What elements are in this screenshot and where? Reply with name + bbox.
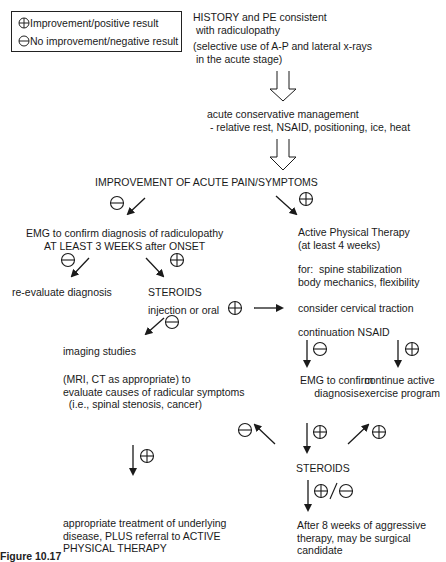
circle-plus-icon — [315, 485, 328, 498]
hollow-arrow-1 — [270, 71, 296, 101]
circle-minus-icon — [18, 35, 30, 47]
xrays-line-1: (selective use of A-P and lateral x-rays — [193, 40, 372, 53]
node-traction: consider cervical traction — [298, 302, 414, 315]
node-treatment: appropriate treatment of underlying dise… — [63, 517, 226, 555]
exercise-line-2: exercise program — [359, 387, 440, 400]
node-imaging-detail: (MRI, CT as appropriate) to evaluate cau… — [63, 373, 245, 411]
node-acute-management: acute conservative management - relative… — [207, 108, 410, 133]
circle-plus-icon — [314, 426, 327, 439]
legend-negative: No improvement/negative result — [18, 35, 178, 47]
history-line-1: HISTORY and PE consistent — [193, 11, 327, 24]
circle-plus-icon — [18, 17, 30, 29]
circle-minus-icon — [111, 197, 124, 210]
hollow-arrow-2 — [270, 139, 296, 170]
surgical-line-2: therapy, may be surgical — [297, 532, 426, 545]
imaging-line-1: (MRI, CT as appropriate) to — [63, 373, 245, 386]
for-items-line-1: for: spine stabilization — [298, 263, 419, 276]
node-history: HISTORY and PE consistent with radiculop… — [193, 11, 327, 36]
circle-plus-icon — [171, 254, 184, 267]
circle-plus-icon — [229, 302, 242, 315]
circle-plus-icon — [406, 343, 419, 356]
active-pt-line-2: (at least 4 weeks) — [298, 239, 410, 252]
exercise-line-1: continue active — [359, 374, 440, 387]
legend-positive-label: Improvement/positive result — [30, 17, 158, 29]
acute-mgmt-line-1: acute conservative management — [207, 108, 410, 121]
treatment-line-2: disease, PLUS referral to ACTIVE — [63, 530, 226, 543]
circle-plus-icon — [300, 193, 313, 206]
circle-minus-icon — [166, 316, 179, 329]
circle-minus-icon — [340, 485, 353, 498]
imaging-line-2: evaluate causes of radicular symptoms — [63, 386, 245, 399]
surgical-line-1: After 8 weeks of aggressive — [297, 519, 426, 532]
node-xrays: (selective use of A-P and lateral x-rays… — [193, 40, 372, 65]
xrays-line-2: in the acute stage) — [193, 53, 372, 66]
node-steroids-right: STEROIDS — [296, 462, 350, 475]
treatment-line-3: PHYSICAL THERAPY — [63, 542, 226, 555]
node-exercise: continue active exercise program — [359, 374, 440, 399]
legend-positive: Improvement/positive result — [18, 17, 158, 29]
node-improvement: IMPROVEMENT OF ACUTE PAIN/SYMPTOMS — [95, 176, 318, 189]
legend-negative-label: No improvement/negative result — [30, 35, 178, 47]
circle-minus-icon — [62, 254, 75, 267]
emg-left-line-2: AT LEAST 3 WEEKS after ONSET — [26, 240, 223, 253]
node-nsaid: continuation NSAID — [298, 326, 390, 339]
circle-plus-icon — [373, 426, 386, 439]
surgical-line-3: candidate — [297, 544, 426, 557]
treatment-line-1: appropriate treatment of underlying — [63, 517, 226, 530]
imaging-line-3: (i.e., spinal stenosis, cancer) — [63, 398, 245, 411]
for-items-line-2: body mechanics, flexibility — [298, 276, 419, 289]
node-surgical: After 8 weeks of aggressive therapy, may… — [297, 519, 426, 557]
emg-left-line-1: EMG to confirm diagnosis of radiculopath… — [26, 227, 223, 240]
node-reevaluate: re-evaluate diagnosis — [12, 286, 112, 299]
circle-minus-icon — [239, 424, 252, 437]
node-active-pt: Active Physical Therapy (at least 4 week… — [298, 226, 410, 251]
node-imaging: imaging studies — [63, 345, 136, 358]
circle-minus-icon — [314, 343, 327, 356]
history-line-2: with radiculopathy — [193, 24, 327, 37]
acute-mgmt-line-2: - relative rest, NSAID, positioning, ice… — [207, 121, 410, 134]
node-emg-left: EMG to confirm diagnosis of radiculopath… — [26, 227, 223, 252]
circle-plus-icon — [141, 450, 154, 463]
figure-caption: Figure 10.17 — [0, 550, 61, 562]
node-steroids-route: injection or oral — [148, 304, 219, 317]
active-pt-line-1: Active Physical Therapy — [298, 226, 410, 239]
node-steroids-left: STEROIDS — [148, 286, 202, 299]
node-for-items: for: spine stabilization body mechanics,… — [298, 263, 419, 288]
legend-box: Improvement/positive result No improveme… — [11, 11, 182, 52]
